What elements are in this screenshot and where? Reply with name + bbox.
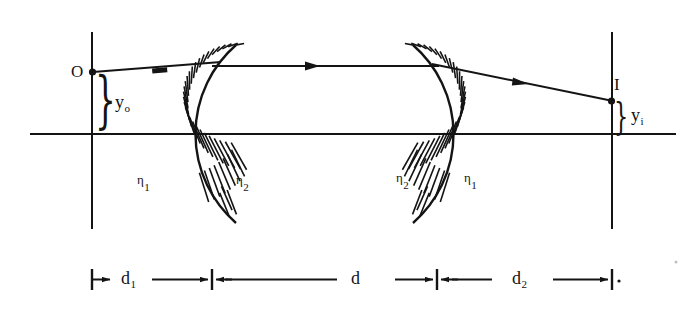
image-height-subscript: i [641,115,644,127]
index-inside-left-label: η2 [236,172,248,190]
index-outside-right-base: η [464,170,471,185]
scan-speck [675,261,678,264]
dimension-label-d1: d1 [121,269,136,287]
ray-internal [212,62,439,71]
dimension-d1-subscript: 1 [131,278,137,290]
dimension-d-base: d [351,268,360,288]
dimension-label-d: d [351,269,360,287]
image-point-label: I [614,76,620,93]
index-outside-right-subscript: 1 [471,179,477,191]
dimension-label-d2: d2 [512,269,527,287]
object-height-base: y [115,92,124,112]
index-inside-right-label: η2 [396,170,408,188]
image-height-label: yi [631,106,643,124]
object-height-subscript: o [125,102,131,114]
dimension-d2-subscript: 2 [522,278,528,290]
image-height-brace: } [614,99,628,135]
object-point-label: O [71,63,83,80]
image-height-base: y [631,105,640,125]
index-outside-right-label: η1 [464,170,476,188]
index-outside-left-base: η [137,172,144,187]
index-outside-left-label: η1 [137,172,149,190]
object-height-label: yo [115,93,130,111]
optics-figure: O } yo I } yi η1 η2 η2 η1 d1 d d2 [0,0,696,329]
dimension-d2-base: d [512,268,521,288]
ray-diagram-canvas [0,0,696,329]
index-inside-left-base: η [236,172,243,187]
index-inside-right-subscript: 2 [403,179,409,191]
index-outside-left-subscript: 1 [144,181,150,193]
index-inside-left-subscript: 2 [243,181,249,193]
index-inside-right-base: η [396,170,403,185]
dim-end-dot [617,279,620,282]
object-height-brace: } [95,70,116,131]
dimension-d1-base: d [121,268,130,288]
